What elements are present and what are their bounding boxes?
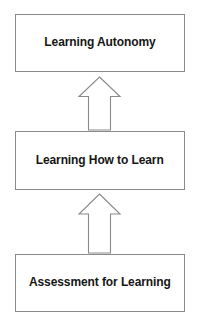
- flow-box-learning-how-to-learn: Learning How to Learn: [15, 131, 185, 190]
- flow-box-label: Learning How to Learn: [36, 154, 164, 168]
- arrow-up-icon: [77, 189, 122, 255]
- flow-box-label: Assessment for Learning: [29, 276, 171, 290]
- flow-box-label: Learning Autonomy: [44, 36, 155, 50]
- arrow-up-icon-to-learning-autonomy: [77, 72, 122, 132]
- flow-diagram: Learning Autonomy Learning How to Learn …: [0, 0, 199, 328]
- arrow-up-icon-to-learning-how-to-learn: [77, 189, 122, 255]
- arrow-up-icon: [77, 72, 122, 132]
- flow-box-learning-autonomy: Learning Autonomy: [15, 14, 185, 72]
- flow-box-assessment-for-learning: Assessment for Learning: [15, 254, 185, 312]
